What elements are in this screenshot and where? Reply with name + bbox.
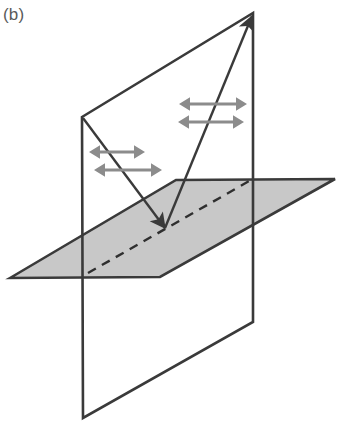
polarization-arrows-group [89, 97, 247, 177]
incident-polarization-arrow-upper [89, 145, 145, 159]
reflecting-surface-plane [10, 179, 335, 278]
panel-label: (b) [3, 5, 24, 25]
figure-container: (b) [0, 0, 337, 430]
incident-polarization-arrow-lower [94, 163, 162, 177]
optics-reflection-diagram [0, 0, 337, 430]
